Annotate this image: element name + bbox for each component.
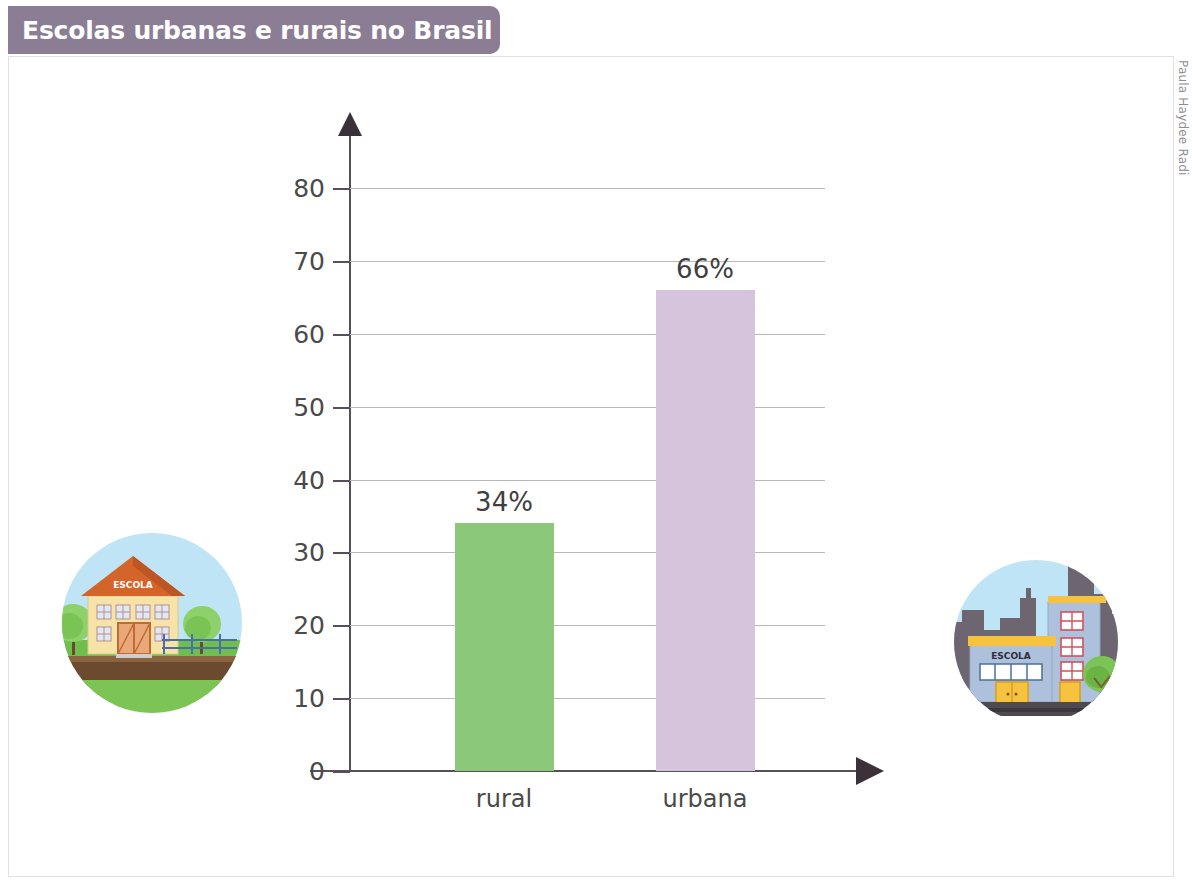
rural-school-illustration: ESCOLA [52,528,252,718]
svg-text:ESCOLA: ESCOLA [113,580,153,590]
svg-text:ESCOLA: ESCOLA [991,651,1031,661]
content-frame [8,56,1174,877]
urban-school-illustration: ESCOLA [948,556,1124,732]
title-banner: Escolas urbanas e rurais no Brasil [8,6,500,54]
page-title: Escolas urbanas e rurais no Brasil [22,16,492,45]
image-credit: Paula Haydee Radi [1176,60,1190,176]
